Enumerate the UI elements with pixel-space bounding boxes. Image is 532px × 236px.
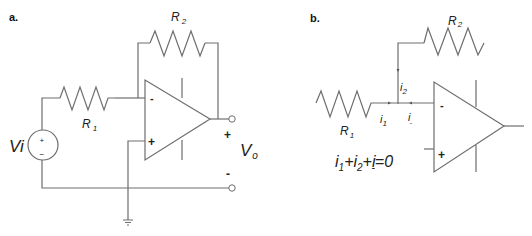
r2-right-wire <box>205 43 218 119</box>
kcl-equation: i1+i2+i-=0 <box>335 153 393 173</box>
opamp-a-noninverting-sign: + <box>148 135 155 149</box>
output-minus-sign: - <box>226 167 230 181</box>
i1-label: i1 <box>380 113 387 128</box>
resistor-r2-b <box>424 28 484 55</box>
r2-label: R2 <box>171 10 187 26</box>
output-terminal-positive <box>229 116 235 122</box>
circuit-diagram: a. R2 R1 + − Vi - + + - Vo b. <box>0 0 532 236</box>
source-minus-sign: − <box>40 150 45 159</box>
vo-label: Vo <box>240 141 258 161</box>
vi-label: Vi <box>9 137 25 156</box>
opamp-a-inverting-sign: - <box>150 92 154 104</box>
panel-b: b. R2 i2 R1 i1 i- - + i1+i2+i-=0 <box>310 12 524 173</box>
noninverting-input-wire <box>128 141 145 220</box>
iminus-label: i- <box>408 111 412 127</box>
source-top-wire <box>42 98 60 130</box>
r2-left-wire <box>138 43 150 98</box>
ground-return-wire <box>42 160 229 188</box>
ground-icon <box>123 220 133 225</box>
panel-b-label: b. <box>310 12 320 24</box>
iminus-arrow <box>409 102 412 105</box>
opamp-b-inverting-sign: - <box>440 99 444 111</box>
output-plus-sign: + <box>224 128 231 142</box>
i2-arrow <box>397 69 400 72</box>
resistor-r1-b <box>316 91 380 117</box>
output-terminal-negative <box>229 185 235 191</box>
r1-label: R1 <box>82 117 97 133</box>
resistor-r1 <box>60 87 115 110</box>
r2-b-label: R2 <box>448 14 463 29</box>
panel-a-label: a. <box>9 11 18 23</box>
opamp-b-noninverting-sign: + <box>438 148 445 162</box>
i1-arrow <box>388 102 391 105</box>
r1-b-label: R1 <box>340 124 354 140</box>
resistor-r2 <box>150 31 205 56</box>
source-plus-sign: + <box>40 136 45 145</box>
panel-a: a. R2 R1 + − Vi - + + - Vo <box>9 10 258 225</box>
i2-label: i2 <box>400 81 407 96</box>
